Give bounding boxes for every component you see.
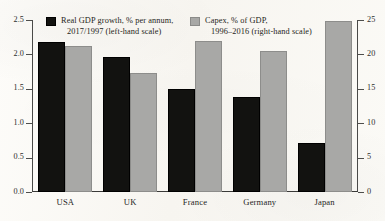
legend-gdp-line1: Real GDP growth, % per annum, [61, 16, 174, 25]
right-axis-ticklabel: 10 [367, 119, 375, 127]
right-axis-tick [358, 123, 364, 124]
right-axis-tick [358, 20, 364, 21]
bar-capex-uk [130, 73, 157, 192]
left-axis-ticklabel: 0.0 [13, 188, 24, 196]
legend-capex-line2: 1996–2016 (right-hand scale) [205, 27, 312, 38]
plot-area [33, 20, 357, 192]
bar-capex-france [195, 41, 222, 192]
right-axis-ticklabel: 0 [367, 188, 371, 196]
right-axis-ticklabel: 20 [367, 50, 375, 58]
grey-square-swatch-icon [190, 17, 200, 26]
legend-capex-line1: Capex, % of GDP, [205, 16, 268, 25]
right-axis-ticklabel: 5 [367, 153, 371, 161]
left-axis-ticklabel: 2.5 [13, 16, 24, 24]
chart-screenshot: 0.00.51.01.52.02.5 0510152025 USAUKFranc… [0, 0, 385, 221]
left-axis-tick [26, 192, 32, 193]
bar-capex-germany [260, 51, 287, 192]
right-axis-tick [358, 89, 364, 90]
bar-capex-japan [325, 21, 352, 192]
right-value-axis: 0510152025 [358, 0, 385, 221]
right-axis-tick [358, 54, 364, 55]
bar-gdp-usa [38, 42, 65, 192]
legend-label-gdp: Real GDP growth, % per annum, 2017/1997 … [61, 16, 174, 37]
left-axis-ticklabel: 1.5 [13, 84, 24, 92]
right-axis-tick [358, 192, 364, 193]
legend-label-capex: Capex, % of GDP, 1996–2016 (right-hand s… [205, 16, 312, 37]
bar-capex-usa [65, 46, 92, 193]
bar-gdp-germany [233, 97, 260, 192]
right-axis-ticklabel: 15 [367, 84, 375, 92]
bar-gdp-france [168, 89, 195, 192]
right-axis-tick [358, 158, 364, 159]
legend-gdp-line2: 2017/1997 (left-hand scale) [61, 27, 174, 38]
black-square-swatch-icon [46, 17, 56, 26]
bar-gdp-uk [103, 57, 130, 193]
left-axis-ticklabel: 1.0 [13, 119, 24, 127]
bar-gdp-japan [298, 143, 325, 193]
right-axis-ticklabel: 25 [367, 16, 375, 24]
left-axis-ticklabel: 0.5 [13, 153, 24, 161]
category-label-japan: Japan [285, 198, 365, 207]
left-axis-ticklabel: 2.0 [13, 50, 24, 58]
left-value-axis: 0.00.51.01.52.02.5 [0, 0, 32, 221]
